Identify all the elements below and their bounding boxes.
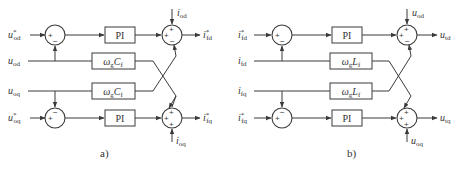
sign: − <box>280 108 285 117</box>
output-d-label: i*fd <box>203 28 213 42</box>
input-meas-d-label: ifd <box>238 55 247 68</box>
pi-label: PI <box>116 30 125 41</box>
input-meas-q-label: ifq <box>238 85 247 98</box>
sign: + <box>404 108 409 117</box>
ff-q-label: uoq <box>411 135 424 148</box>
sign: − <box>170 37 175 46</box>
sign: + <box>164 31 169 40</box>
caption-a: a) <box>100 147 109 160</box>
pi-label: PI <box>116 113 125 124</box>
output-q-label: utq <box>440 112 451 125</box>
output-d-label: utd <box>440 29 451 42</box>
cross-d-to-q <box>135 61 176 107</box>
diagram-b: i*fd + − PI + + − uod utd ifd ωgLf ifq ω… <box>238 7 451 160</box>
sign: − <box>53 108 58 117</box>
ff-q-label: ioq <box>176 135 186 148</box>
pi-label: PI <box>343 113 352 124</box>
pi-label: PI <box>343 30 352 41</box>
ff-d-label: iod <box>177 7 187 20</box>
sign: + <box>404 25 409 34</box>
sign: + <box>399 31 404 40</box>
sign: + <box>169 120 174 129</box>
cross-q-arrow <box>409 45 411 56</box>
cross-d-arrow <box>404 96 411 108</box>
sign: − <box>53 37 58 46</box>
input-ref-q-label: u*oq <box>8 111 21 125</box>
input-meas-d-label: uod <box>8 55 21 68</box>
input-ref-d-label: i*fd <box>238 28 248 42</box>
sign: − <box>280 37 285 46</box>
input-ref-q-label: i*fq <box>238 111 248 125</box>
sign: + <box>169 25 174 34</box>
input-ref-d-label: u*od <box>8 28 21 42</box>
output-q-label: i*fq <box>203 111 213 125</box>
control-block-diagrams: u*od + − PI + + − iod i*fd uod ωgCf uoq … <box>0 0 462 170</box>
sign: − <box>405 37 410 46</box>
sign: + <box>169 108 174 117</box>
cross-q-arrow <box>174 45 176 56</box>
sign: + <box>404 120 409 129</box>
ff-d-label: uod <box>412 7 425 20</box>
diagram-a: u*od + − PI + + − iod i*fd uod ωgCf uoq … <box>8 7 213 160</box>
caption-b: b) <box>347 147 357 160</box>
input-meas-q-label: uoq <box>8 85 21 98</box>
